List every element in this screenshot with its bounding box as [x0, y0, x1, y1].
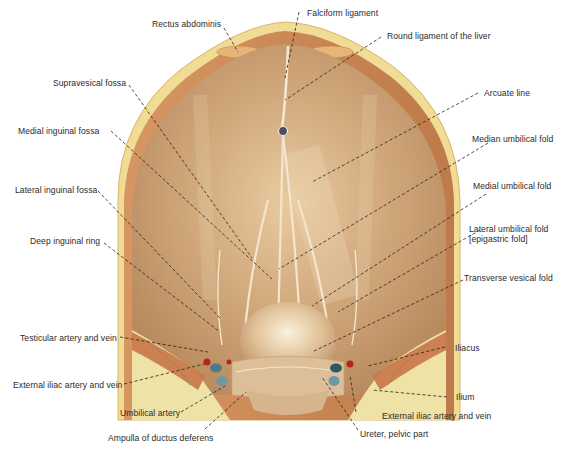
label-supravesical-fossa: Supravesical fossa [53, 78, 126, 88]
label-testicular-artery-and-vein: Testicular artery and vein [20, 333, 117, 343]
label-round-ligament-of-liver: Round ligament of the liver [387, 31, 491, 41]
label-falciform-ligament: Falciform ligament [307, 8, 378, 18]
label-external-iliac-artery-and-vein-right: External iliac artery and vein [382, 411, 491, 421]
label-medial-inguinal-fossa: Medial inguinal fossa [18, 126, 99, 136]
label-ampulla-of-ductus-deferens: Ampulla of ductus deferens [108, 433, 213, 443]
label-umbilical-artery: Umbilical artery [120, 408, 180, 418]
label-rectus-abdominis: Rectus abdominis [152, 19, 221, 29]
label-transverse-vesical-fold: Transverse vesical fold [464, 273, 553, 283]
label-ilium: Ilium [456, 392, 474, 402]
label-median-umbilical-fold: Median umbilical fold [472, 134, 553, 144]
label-iliacus: Iliacus [455, 343, 480, 353]
label-medial-umbilical-fold: Medial umbilical fold [473, 181, 551, 191]
label-lateral-umbilical-fold: Lateral umbilical fold [469, 224, 548, 234]
label-lateral-inguinal-fossa: Lateral inguinal fossa [15, 185, 97, 195]
label-deep-inguinal-ring: Deep inguinal ring [30, 236, 100, 246]
label-arcuate-line: Arcuate line [484, 88, 530, 98]
label-external-iliac-artery-and-vein-left: External iliac artery and vein [13, 380, 122, 390]
label-ureter-pelvic-part: Ureter, pelvic part [360, 429, 428, 439]
label-epigastric-fold: [epigastric fold] [469, 234, 528, 244]
